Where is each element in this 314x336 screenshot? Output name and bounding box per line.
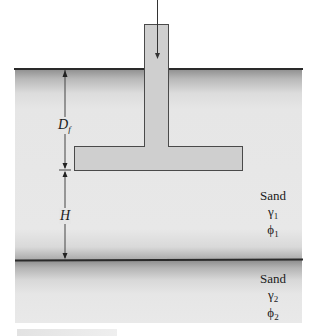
- layer1-material: Sand: [248, 189, 298, 202]
- cropped-caption: [17, 329, 117, 336]
- layer2-material: Sand: [248, 272, 298, 285]
- layer2-friction-angle: ϕ2: [248, 306, 298, 322]
- df-label: Df: [57, 117, 72, 134]
- layer1-friction-angle: ϕ1: [248, 223, 298, 239]
- layer1-labels: Sand γ1 ϕ1: [248, 189, 298, 239]
- gamma-subscript: 2: [274, 294, 279, 304]
- h-label: H: [59, 208, 71, 224]
- layer1-unit-weight: γ1: [248, 205, 298, 221]
- load-arrow-icon: [155, 0, 160, 59]
- phi-subscript: 1: [274, 229, 279, 239]
- phi-subscript: 2: [274, 312, 279, 322]
- gamma-subscript: 1: [274, 211, 279, 221]
- layer2-unit-weight: γ2: [248, 288, 298, 304]
- foundation-diagram: Df H Sand γ1 ϕ1 Sand γ2 ϕ2: [0, 0, 314, 336]
- df-subscript: f: [68, 124, 71, 134]
- df-symbol: D: [58, 117, 68, 132]
- layer2-labels: Sand γ2 ϕ2: [248, 272, 298, 322]
- h-symbol: H: [60, 208, 70, 223]
